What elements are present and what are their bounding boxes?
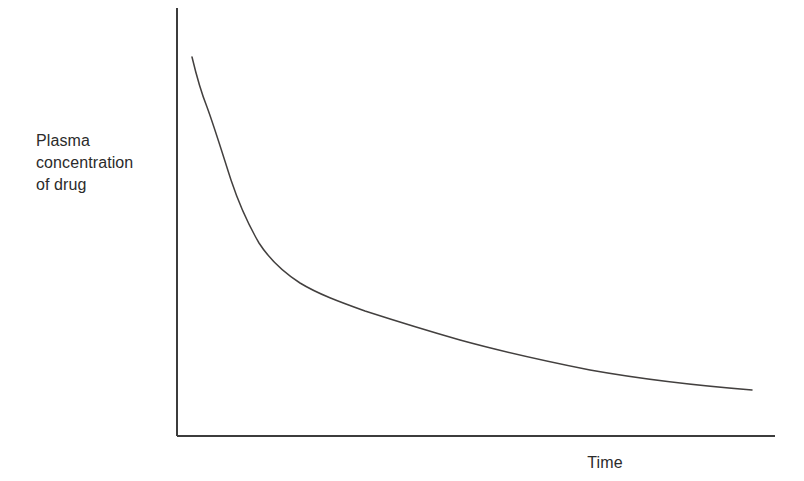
plot-area: [0, 0, 804, 481]
pharmacokinetic-decay-chart: Plasma concentration of drug Time: [0, 0, 804, 481]
concentration-decay-curve: [192, 57, 752, 390]
x-axis-label: Time: [540, 452, 670, 474]
y-axis-label: Plasma concentration of drug: [36, 130, 168, 196]
